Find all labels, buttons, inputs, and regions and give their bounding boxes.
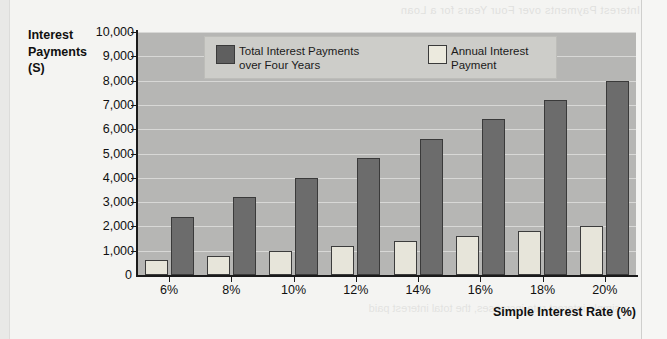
bar-group: [138, 32, 200, 275]
y-axis-tick-label: 6,000: [72, 122, 134, 136]
bar-annual-interest: [394, 241, 417, 275]
x-axis-tick-mark: [169, 276, 170, 282]
bar-annual-interest: [518, 231, 541, 275]
bar-total-interest: [233, 197, 256, 275]
y-axis-tick-mark: [131, 178, 136, 179]
legend-swatch-icon-total-interest: [216, 45, 235, 64]
y-axis-tick-mark: [131, 32, 136, 33]
x-axis-tick-label: 6%: [139, 283, 199, 297]
legend-item-total-interest: Total Interest Payments over Four Years: [216, 44, 359, 72]
y-axis-line: [136, 30, 138, 277]
x-axis-tick-mark: [418, 276, 419, 282]
x-axis-tick-label: 10%: [264, 283, 324, 297]
y-axis-tick-label: 0: [112, 268, 132, 282]
bar-total-interest: [420, 139, 443, 275]
y-axis-tick-label: 7,000: [72, 98, 134, 112]
x-axis-tick-mark: [605, 276, 606, 282]
legend-swatch-icon-annual-interest: [428, 45, 447, 64]
x-axis-tick-label: 16%: [450, 283, 510, 297]
bar-annual-interest: [207, 256, 230, 275]
y-axis-tick-mark: [131, 105, 136, 106]
x-axis-tick-mark: [480, 276, 481, 282]
x-axis-line: [136, 275, 638, 277]
y-axis-tick-label: 1,000: [72, 244, 134, 258]
x-axis-tick-label: 12%: [326, 283, 386, 297]
x-axis-tick-label: 14%: [388, 283, 448, 297]
page-right-edge: [641, 0, 667, 339]
legend-label-total-interest: Total Interest Payments over Four Years: [239, 44, 359, 72]
x-axis-tick-mark: [356, 276, 357, 282]
y-axis-tick-mark: [131, 251, 136, 252]
bar-annual-interest: [331, 246, 354, 275]
x-axis-tick-mark: [543, 276, 544, 282]
bar-total-interest: [482, 119, 505, 275]
x-axis-tick-label: 18%: [513, 283, 573, 297]
y-axis-tick-labels: 1,0002,0003,0004,0005,0006,0007,0008,000…: [66, 0, 134, 339]
bar-annual-interest: [145, 260, 168, 275]
y-axis-tick-mark: [131, 129, 136, 130]
chart-legend: Total Interest Payments over Four Years …: [204, 36, 557, 79]
y-axis-tick-label: 4,000: [72, 171, 134, 185]
legend-label-annual-interest: Annual Interest Payment: [451, 44, 528, 72]
y-axis-tick-mark: [131, 202, 136, 203]
x-axis-tick-mark: [294, 276, 295, 282]
x-axis-tick-label: 20%: [575, 283, 635, 297]
page-left-edge: [0, 0, 10, 339]
y-axis-tick-label: 10,000: [72, 25, 134, 39]
x-axis-tick-label: 8%: [201, 283, 261, 297]
bar-total-interest: [357, 158, 380, 275]
y-axis-tick-label: 3,000: [72, 195, 134, 209]
y-axis-tick-label: 8,000: [72, 74, 134, 88]
bar-annual-interest: [580, 226, 603, 275]
x-axis-tick-mark: [231, 276, 232, 282]
bar-total-interest: [295, 178, 318, 275]
y-axis-tick-mark: [131, 226, 136, 227]
bar-total-interest: [171, 217, 194, 275]
bar-annual-interest: [456, 236, 479, 275]
x-axis-title: Simple Interest Rate (%): [0, 305, 636, 319]
bar-group: [574, 32, 636, 275]
bar-annual-interest: [269, 251, 292, 275]
y-axis-tick-label: 9,000: [72, 49, 134, 63]
y-axis-tick-mark: [131, 81, 136, 82]
y-axis-tick-mark: [131, 56, 136, 57]
y-axis-tick-mark: [131, 154, 136, 155]
bar-total-interest: [544, 100, 567, 275]
y-axis-tick-label: 2,000: [72, 219, 134, 233]
legend-item-annual-interest: Annual Interest Payment: [428, 44, 528, 72]
bar-total-interest: [606, 81, 629, 275]
y-axis-tick-label: 5,000: [72, 147, 134, 161]
